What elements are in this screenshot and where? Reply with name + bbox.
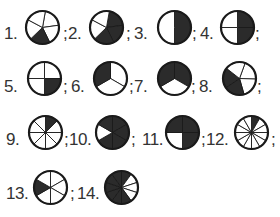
separator: ; [131,131,136,148]
item-number-label: 6. [71,78,84,95]
item-number-label: 2. [68,25,81,42]
item-number-label: 1. [4,25,17,42]
item-number-label: 5. [4,78,17,95]
separator: ; [257,78,262,95]
fraction-circle [32,169,69,206]
item-number-label: 7. [134,78,147,95]
item-number-label: 11. [142,131,163,148]
fraction-circle [233,114,270,151]
shaded-sector [174,11,191,44]
item-number-label: 12. [206,131,228,148]
fraction-circle [221,60,258,97]
fraction-circle [26,60,63,97]
separator: ; [63,78,68,95]
item-number-label: 13. [6,185,28,202]
item-number-label: 10. [69,131,91,148]
fraction-circle [103,169,140,206]
fraction-circle [156,9,193,46]
fraction-circle [164,114,201,151]
separator: ; [192,25,197,42]
item-number-label: 8. [199,78,212,95]
separator: ; [70,185,75,202]
item-number-label: 14. [77,185,99,202]
fraction-circle [156,60,193,97]
fraction-circle [94,114,131,151]
separator: ; [271,131,276,148]
separator: ; [255,25,260,42]
unshaded-sector [158,11,175,44]
item-number-label: 9. [6,131,19,148]
fraction-circle [24,9,61,46]
item-number-label: 4. [200,25,213,42]
separator: ; [126,25,131,42]
fraction-circle [219,9,256,46]
fraction-circle [92,60,129,97]
fraction-circle [88,9,125,46]
fraction-circle [27,114,64,151]
item-number-label: 3. [134,25,147,42]
